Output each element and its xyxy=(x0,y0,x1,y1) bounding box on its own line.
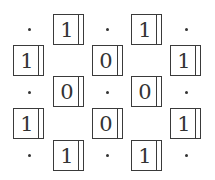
dot-marker xyxy=(185,91,188,94)
cell-value: 1 xyxy=(132,141,158,170)
grid-cell-r1-c4: 1 xyxy=(170,45,201,76)
dot-marker xyxy=(28,154,31,157)
cell-value: 1 xyxy=(54,15,80,44)
dot-marker xyxy=(28,91,31,94)
dot-marker xyxy=(185,154,188,157)
cell-value: 1 xyxy=(54,141,80,170)
cell-value: 1 xyxy=(14,46,40,75)
grid-cell-r3-c4: 1 xyxy=(170,108,201,139)
dot-marker xyxy=(185,28,188,31)
grid-cell-r0-c1: 1 xyxy=(53,14,84,45)
dot-marker xyxy=(106,154,109,157)
dot-marker xyxy=(106,91,109,94)
grid-cell-r0-c3: 1 xyxy=(131,14,162,45)
grid-cell-r4-c3: 1 xyxy=(131,140,162,171)
cell-value: 0 xyxy=(132,77,158,106)
cell-value: 1 xyxy=(14,109,40,138)
dot-marker xyxy=(106,28,109,31)
grid-cell-r3-c2: 0 xyxy=(92,108,123,139)
cell-value: 0 xyxy=(93,109,119,138)
dot-marker xyxy=(28,28,31,31)
grid-cell-r1-c0: 1 xyxy=(13,45,44,76)
cell-value: 0 xyxy=(93,46,119,75)
cell-value: 1 xyxy=(132,15,158,44)
grid-cell-r2-c3: 0 xyxy=(131,76,162,107)
grid-cell-r2-c1: 0 xyxy=(53,76,84,107)
grid-cell-r4-c1: 1 xyxy=(53,140,84,171)
cell-value: 0 xyxy=(54,77,80,106)
cell-value: 1 xyxy=(171,109,197,138)
grid-cell-r1-c2: 0 xyxy=(92,45,123,76)
cell-value: 1 xyxy=(171,46,197,75)
grid-cell-r3-c0: 1 xyxy=(13,108,44,139)
